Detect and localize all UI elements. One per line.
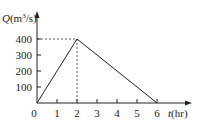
hydrograph-line — [37, 39, 157, 103]
x-ticks — [57, 99, 157, 103]
y-ticks — [37, 39, 41, 87]
x-tick-label: 2 — [74, 107, 80, 119]
y-tick-label: 300 — [16, 49, 33, 61]
x-tick-label: 5 — [134, 107, 140, 119]
y-tick-label: 100 — [16, 81, 33, 93]
y-tick-label: 200 — [16, 65, 33, 77]
x-tick-label: 0 — [31, 107, 37, 119]
x-tick-label: 4 — [114, 107, 120, 119]
x-axis-arrow-icon — [185, 101, 192, 106]
x-tick-label: 3 — [94, 107, 100, 119]
y-tick-label: 400 — [16, 33, 33, 45]
hydrograph-chart: 100 200 300 400 0 1 2 3 4 5 6 Q(m3/s) t(… — [0, 0, 199, 125]
y-axis-title: Q(m3/s) — [2, 12, 37, 25]
x-axis-title: t(hr) — [168, 107, 188, 120]
x-tick-label: 1 — [54, 107, 60, 119]
x-tick-label: 6 — [154, 107, 160, 119]
